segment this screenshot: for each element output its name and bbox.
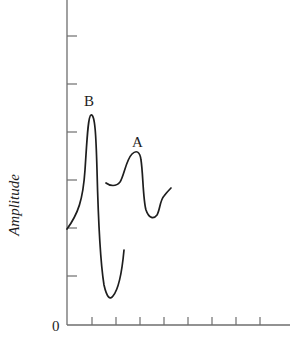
peak-a-label: A: [132, 134, 143, 150]
y-ticks: [67, 36, 77, 276]
y-axis-label: Amplitude: [6, 174, 22, 237]
origin-label: 0: [52, 318, 60, 334]
amplitude-chart: B A 0 Amplitude: [0, 0, 299, 353]
x-ticks: [92, 317, 260, 325]
series-b-curve: [67, 115, 124, 298]
peak-b-label: B: [84, 93, 94, 109]
series-a-curve: [106, 152, 171, 218]
